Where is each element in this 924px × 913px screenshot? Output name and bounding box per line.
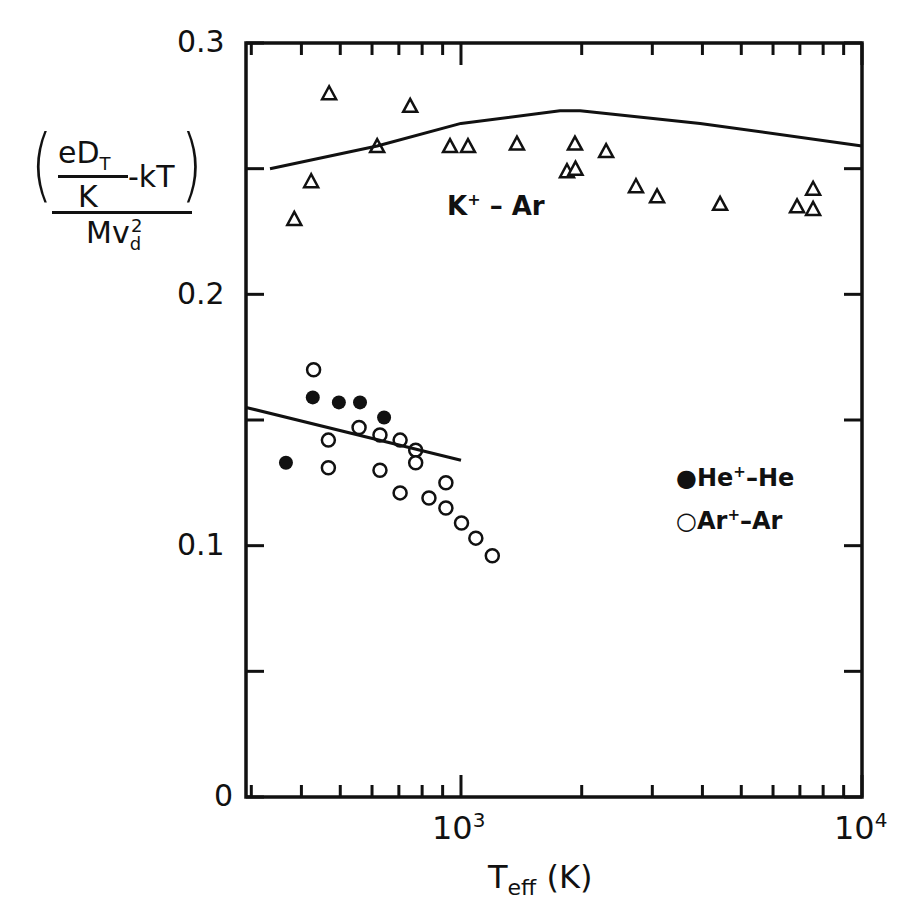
open-circle-icon: ○	[676, 507, 697, 535]
y-tick-0: 0	[214, 778, 233, 813]
axis-ticks	[246, 43, 862, 797]
outer-fraction-bar	[52, 211, 192, 214]
y-tick-0.1: 0.1	[177, 527, 225, 562]
x-tick-1e3: 103	[432, 808, 485, 847]
filled-circle-icon: ●	[676, 464, 697, 492]
y-tick-0.3: 0.3	[177, 24, 225, 59]
axes-frame	[246, 43, 862, 797]
legend-item-he: ●He+–He	[676, 463, 794, 492]
y-axis-label: ( eDT K -kT ) Mvd2	[6, 125, 206, 315]
legend-item-ar: ○Ar+–Ar	[676, 506, 782, 535]
inner-fraction-bar	[58, 175, 128, 178]
x-axis-label: Teff (K)	[488, 858, 592, 900]
k-ar-annotation: K+ – Ar	[447, 190, 545, 221]
x-tick-1e4: 104	[834, 808, 887, 847]
